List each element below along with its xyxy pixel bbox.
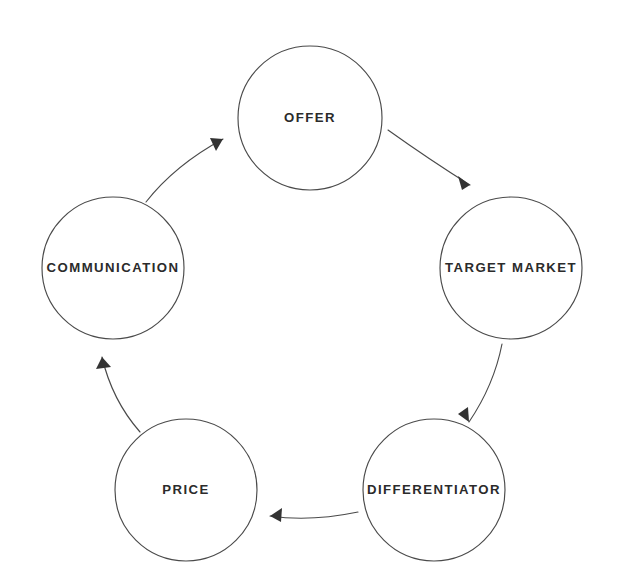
connector-price-to-communication: [96, 357, 140, 432]
cycle-diagram-canvas: OFFER TARGET MARKET DIFFERENTIATOR PRICE…: [0, 0, 620, 586]
connector-offer-to-target-market: [388, 130, 470, 190]
node-communication[interactable]: COMMUNICATION: [42, 197, 184, 339]
node-differentiator[interactable]: DIFFERENTIATOR: [363, 419, 505, 561]
arrowhead-icon: [96, 357, 111, 369]
node-label-price: PRICE: [162, 482, 210, 497]
arrowhead-icon: [210, 138, 223, 151]
connector-target-market-to-differentiator: [458, 344, 502, 422]
arrowhead-icon: [270, 508, 282, 522]
node-group: OFFER TARGET MARKET DIFFERENTIATOR PRICE…: [42, 46, 582, 561]
connector-line: [388, 130, 470, 185]
node-price[interactable]: PRICE: [115, 419, 257, 561]
connector-line: [102, 357, 140, 432]
cycle-diagram: OFFER TARGET MARKET DIFFERENTIATOR PRICE…: [0, 0, 620, 586]
arrowhead-icon: [458, 407, 469, 422]
node-label-target-market: TARGET MARKET: [445, 260, 577, 275]
connector-line: [270, 512, 358, 518]
connector-line: [146, 139, 223, 202]
node-label-differentiator: DIFFERENTIATOR: [367, 482, 501, 497]
arrowhead-icon: [458, 176, 470, 190]
node-offer[interactable]: OFFER: [238, 46, 382, 190]
connector-differentiator-to-price: [270, 508, 358, 522]
node-target-market[interactable]: TARGET MARKET: [440, 197, 582, 339]
connector-communication-to-offer: [146, 138, 223, 202]
node-label-offer: OFFER: [284, 110, 336, 125]
node-label-communication: COMMUNICATION: [47, 260, 180, 275]
connector-line: [469, 344, 502, 422]
